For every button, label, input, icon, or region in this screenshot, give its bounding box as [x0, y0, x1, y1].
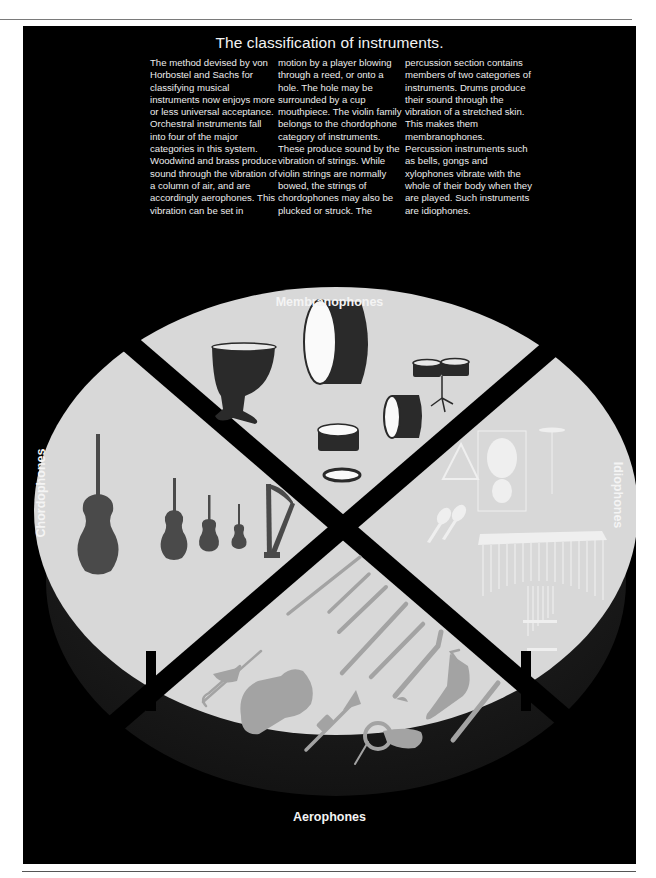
- idiophones-label: Idiophones: [611, 440, 625, 550]
- snare-drum-icon: [318, 424, 359, 451]
- tambourine-icon: [324, 469, 360, 481]
- top-rule: [0, 19, 632, 20]
- bottom-rule: [22, 871, 636, 872]
- membranophones-label: Membranophones: [23, 295, 636, 309]
- classification-panel: The classification of instruments. The m…: [23, 26, 636, 864]
- classification-disc-diagram: [23, 26, 636, 864]
- chordophones-label: Chordophones: [34, 438, 48, 548]
- aerophones-label: Aerophones: [23, 810, 636, 824]
- tom-tom-icon: [384, 395, 422, 438]
- bass-drum-icon: [304, 300, 368, 384]
